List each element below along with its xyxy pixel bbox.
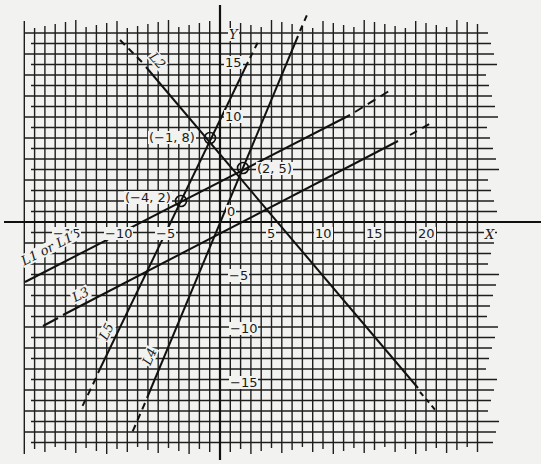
- ytick-label: 15: [224, 56, 243, 69]
- ytick-label: −10: [229, 322, 258, 335]
- line-L3-dash-end: [410, 122, 433, 135]
- line-L4-dash-bottom: [132, 403, 145, 433]
- x-axis-label: X: [484, 228, 495, 241]
- line-L5-dash-bottom: [82, 378, 96, 407]
- xtick-label: 5: [266, 227, 276, 240]
- line-L2-dash-end: [420, 392, 437, 412]
- line-L4-dash-top: [300, 15, 307, 31]
- xtick-label: 10: [314, 227, 333, 240]
- origin-label: 0: [226, 205, 236, 218]
- line-L1-dash: [355, 91, 389, 112]
- line-L4: [147, 36, 298, 398]
- point-label-neg4-2: (−4, 2): [124, 191, 172, 204]
- ytick-label: −15: [229, 376, 258, 389]
- xtick-label: −5: [155, 227, 176, 240]
- xtick-label: −10: [104, 227, 133, 240]
- ytick-label: −5: [228, 269, 249, 282]
- xtick-label: 15: [365, 227, 384, 240]
- point-label-2-5: (2, 5): [256, 162, 293, 175]
- ytick-label: 10: [224, 110, 243, 123]
- y-axis-label: Y: [228, 28, 239, 41]
- xtick-label: 20: [417, 227, 436, 240]
- point-label-neg1-8: (−1, 8): [148, 131, 196, 144]
